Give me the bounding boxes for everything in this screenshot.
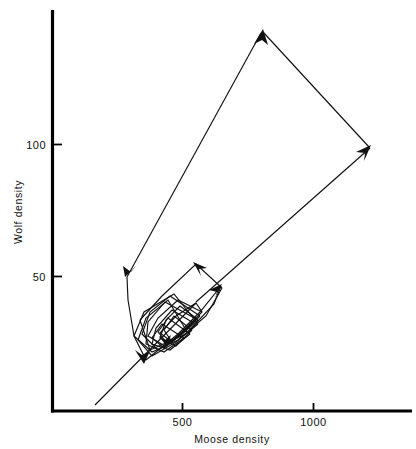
plot-background bbox=[0, 0, 416, 449]
y-axis-title: Wolf density bbox=[12, 180, 24, 244]
y-tick-label-100: 100 bbox=[26, 139, 46, 151]
x-tick-label-1000: 1000 bbox=[300, 416, 326, 428]
wolf-moose-phase-plot: 100 50 500 1000 Moose density Wolf densi… bbox=[0, 0, 416, 449]
y-tick-label-50: 50 bbox=[33, 271, 46, 283]
phase-plot-figure: 100 50 500 1000 Moose density Wolf densi… bbox=[0, 0, 416, 449]
x-tick-label-500: 500 bbox=[173, 416, 193, 428]
x-axis-title: Moose density bbox=[194, 433, 270, 445]
